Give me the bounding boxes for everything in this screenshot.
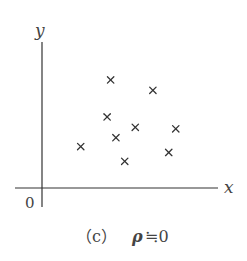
data-point-0: [78, 143, 84, 149]
data-point-1: [107, 77, 113, 83]
caption-label: （c）: [76, 227, 117, 246]
y-axis-label: y: [34, 20, 45, 40]
caption-relation: ≒0: [145, 227, 169, 246]
data-point-6: [150, 87, 156, 93]
origin-label: 0: [25, 194, 35, 212]
data-point-5: [132, 124, 138, 130]
data-point-4: [122, 158, 128, 164]
scatter-chart: y x 0 （c） ρ ≒0: [0, 0, 247, 261]
data-point-2: [104, 114, 110, 120]
data-point-7: [173, 126, 179, 132]
data-point-8: [166, 149, 172, 155]
x-axis-label: x: [224, 177, 234, 197]
caption-rho: ρ: [131, 227, 143, 246]
data-points: [78, 77, 179, 165]
caption: （c） ρ ≒0: [76, 227, 169, 246]
data-point-3: [113, 134, 119, 140]
